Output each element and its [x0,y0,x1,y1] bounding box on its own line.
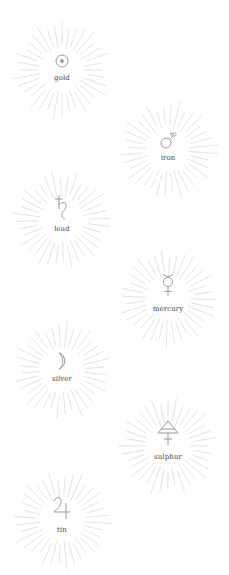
element-label: gold [7,74,117,82]
element-label: silver [7,375,117,383]
element-label: lead [7,225,117,233]
element-gold[interactable]: gold [7,15,117,125]
jupiter-icon [50,493,74,523]
element-label: tin [7,526,117,534]
mars-icon [156,128,180,152]
moon-crescent-icon [50,349,74,373]
element-mercury[interactable]: mercury [113,243,223,353]
sulphur-triangle-cross-icon [156,418,180,450]
saturn-icon [50,193,74,223]
sun-circle-dot-icon [50,49,74,73]
element-label: sulphur [113,453,223,461]
element-label: iron [113,154,223,162]
element-tin[interactable]: tin [7,465,117,575]
element-sulphur[interactable]: sulphur [113,391,223,501]
element-silver[interactable]: silver [7,315,117,425]
mercury-icon [156,271,180,301]
element-lead[interactable]: lead [7,165,117,275]
element-iron[interactable]: iron [113,95,223,205]
element-label: mercury [113,305,223,313]
